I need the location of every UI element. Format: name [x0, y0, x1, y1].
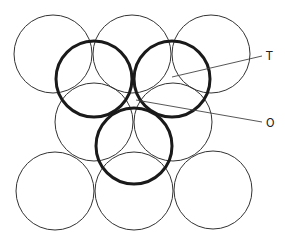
octahedral-leader-line	[136, 100, 262, 122]
thick-circle-layer	[56, 41, 210, 184]
sphere-circle-5	[16, 152, 94, 230]
tetrahedral-leader-line	[172, 56, 262, 77]
sphere-circle-0	[14, 15, 92, 93]
sphere-circle-3	[55, 83, 133, 161]
thin-circle-layer	[14, 15, 252, 230]
upper-layer-sphere-circle-0	[56, 41, 132, 117]
tetrahedral-site-label: T	[265, 49, 273, 63]
sphere-circle-6	[95, 152, 173, 230]
octahedral-site-label: O	[266, 116, 275, 130]
packing-diagram: T O	[0, 0, 285, 243]
sphere-circle-7	[174, 151, 252, 229]
